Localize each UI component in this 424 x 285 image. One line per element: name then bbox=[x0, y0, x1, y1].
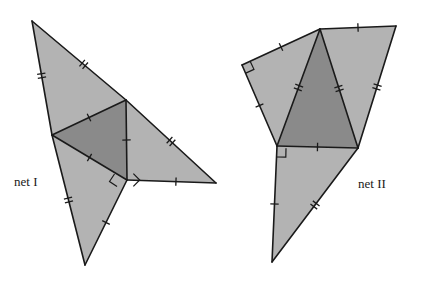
nets-diagram: net Inet II bbox=[0, 0, 424, 285]
net-2-label: net II bbox=[358, 176, 386, 191]
net-1-label: net I bbox=[14, 174, 37, 189]
faces-layer bbox=[32, 21, 396, 265]
figure-canvas: net Inet II bbox=[0, 0, 424, 285]
